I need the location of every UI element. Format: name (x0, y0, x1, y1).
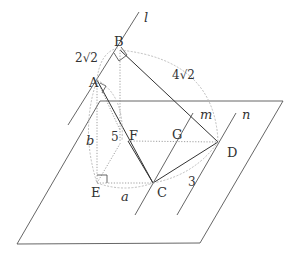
label-line-l: l (144, 10, 148, 25)
label-AB-length: 2√2 (75, 51, 98, 65)
label-CD-length: 3 (188, 175, 196, 189)
label-F: F (129, 128, 138, 143)
arc-EC (97, 183, 153, 188)
segment-FC (128, 141, 153, 183)
geometry-diagram: B A F G D E C l m n 2√2 4√2 5 3 b a (0, 0, 300, 261)
label-line-n: n (242, 107, 250, 122)
label-G: G (172, 127, 182, 142)
label-BD-length: 4√2 (172, 68, 195, 82)
arc-AE (89, 80, 98, 183)
label-C: C (157, 185, 167, 200)
label-EC-a: a (121, 189, 129, 204)
arc-AB (97, 48, 118, 80)
segment-E-F (97, 142, 121, 183)
line-l (68, 12, 139, 125)
label-B: B (114, 34, 124, 49)
segment-CD (153, 142, 218, 183)
label-AE-b: b (86, 133, 94, 148)
label-AF-length: 5 (111, 130, 119, 144)
label-E: E (91, 185, 101, 200)
label-D: D (227, 145, 237, 160)
label-A: A (88, 75, 99, 90)
label-line-m: m (200, 107, 212, 122)
line-n (177, 113, 236, 215)
right-angle-E (97, 175, 107, 183)
segment-A-C-dot (97, 80, 120, 130)
segment-AC (97, 80, 153, 183)
plane (17, 101, 283, 244)
